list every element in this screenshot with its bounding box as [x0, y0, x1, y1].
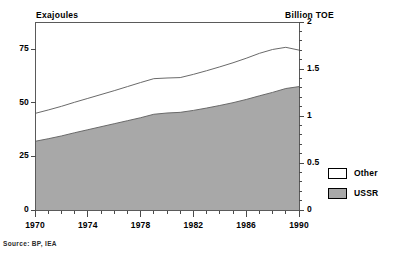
x-tick-major: [87, 211, 88, 217]
y-tick-label-right: 1: [307, 111, 337, 120]
y-tick-right-minor: [299, 153, 302, 154]
x-tick-minor: [167, 211, 168, 214]
legend-swatch-ussr: [328, 188, 347, 199]
x-tick-minor: [206, 211, 207, 214]
y-tick-right-minor: [299, 116, 302, 117]
y-tick-right-minor: [299, 106, 302, 107]
y-tick-right-minor: [299, 144, 302, 145]
y-tick-label-right: 1.5: [307, 64, 337, 73]
legend-swatch-other: [328, 168, 347, 179]
x-tick-minor: [219, 211, 220, 214]
y-tick-right-minor: [299, 200, 302, 201]
y-tick-label-left: 75: [1, 44, 29, 53]
x-tick-major: [246, 211, 247, 217]
x-tick-minor: [233, 211, 234, 214]
x-tick-minor: [114, 211, 115, 214]
x-tick-label: 1982: [173, 221, 213, 230]
y-tick-right: [299, 163, 304, 164]
left-axis-title: Exajoules: [36, 11, 78, 20]
legend-item[interactable]: Other: [328, 166, 378, 180]
y-tick-label-left: 0: [1, 205, 29, 214]
y-tick-label-right: 2: [307, 17, 337, 26]
chart-legend: OtherUSSR: [328, 166, 378, 206]
y-axis-left: [35, 22, 36, 211]
legend-item-label: Other: [354, 168, 378, 178]
x-tick-minor: [48, 211, 49, 214]
y-tick-right: [299, 22, 304, 23]
source-note: Source: BP, IEA: [3, 240, 57, 247]
y-tick-right: [299, 210, 304, 211]
x-tick-minor: [127, 211, 128, 214]
plot-area: [35, 22, 299, 210]
x-tick-minor: [259, 211, 260, 214]
y-tick-right-minor: [299, 59, 302, 60]
y-tick-right-minor: [299, 125, 302, 126]
x-tick-major: [140, 211, 141, 217]
y-tick-left: [31, 49, 36, 50]
legend-item[interactable]: USSR: [328, 186, 378, 200]
y-tick-label-left: 25: [1, 151, 29, 160]
x-tick-minor: [61, 211, 62, 214]
x-tick-minor: [74, 211, 75, 214]
x-tick-label: 1978: [121, 221, 161, 230]
y-tick-right: [299, 69, 304, 70]
x-tick-major: [193, 211, 194, 217]
plot-top-border: [35, 22, 300, 23]
y-tick-right-minor: [299, 50, 302, 51]
legend-item-label: USSR: [354, 188, 378, 198]
y-tick-right-minor: [299, 78, 302, 79]
x-tick-label: 1970: [15, 221, 55, 230]
x-tick-minor: [272, 211, 273, 214]
x-tick-label: 1990: [279, 221, 319, 230]
y-tick-right-minor: [299, 172, 302, 173]
y-tick-label-right: 0: [307, 205, 337, 214]
y-tick-right-minor: [299, 97, 302, 98]
stacked-area-plot: [35, 22, 299, 210]
y-tick-right-minor: [299, 31, 302, 32]
y-tick-label-left: 50: [1, 98, 29, 107]
x-tick-minor: [180, 211, 181, 214]
x-tick-minor: [285, 211, 286, 214]
y-tick-right-minor: [299, 40, 302, 41]
x-tick-major: [299, 211, 300, 217]
chart-figure: Exajoules Billion TOE 0255075 00.511.52 …: [0, 0, 396, 265]
y-tick-left: [31, 156, 36, 157]
y-tick-right-minor: [299, 134, 302, 135]
x-tick-major: [35, 211, 36, 217]
x-tick-label: 1974: [68, 221, 108, 230]
x-tick-minor: [101, 211, 102, 214]
y-tick-left: [31, 102, 36, 103]
y-tick-right-minor: [299, 87, 302, 88]
x-tick-label: 1986: [226, 221, 266, 230]
x-tick-minor: [153, 211, 154, 214]
y-tick-right-minor: [299, 191, 302, 192]
y-tick-right-minor: [299, 181, 302, 182]
